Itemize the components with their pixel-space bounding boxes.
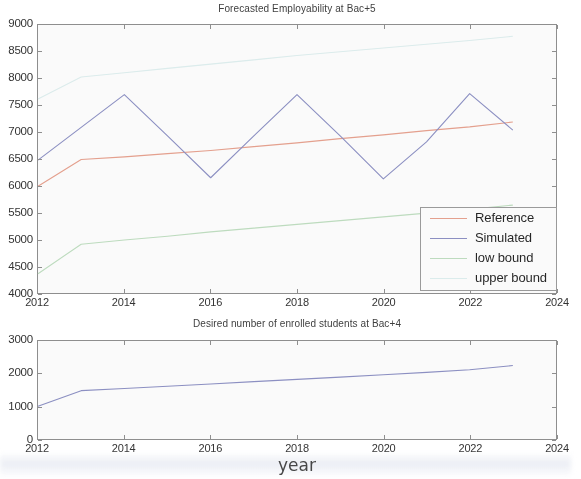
y-tick xyxy=(38,51,42,52)
y-tick xyxy=(38,105,42,106)
x-tick-label: 2018 xyxy=(271,296,323,308)
y-tick xyxy=(552,51,556,52)
y-tick-label: 8500 xyxy=(0,44,33,56)
x-tick xyxy=(297,25,298,29)
y-tick xyxy=(38,132,42,133)
x-tick xyxy=(384,341,385,345)
x-tick-label: 2020 xyxy=(358,296,410,308)
legend-color-swatch xyxy=(430,278,467,279)
x-tick-label: 2014 xyxy=(98,442,150,454)
x-tick xyxy=(384,289,385,293)
x-tick xyxy=(210,25,211,29)
y-tick xyxy=(38,440,42,441)
y-tick xyxy=(38,78,42,79)
x-tick xyxy=(37,341,38,345)
y-tick-label: 6000 xyxy=(0,179,33,191)
series-line-enrolled-students xyxy=(38,366,513,407)
x-tick xyxy=(210,289,211,293)
y-tick xyxy=(552,105,556,106)
y-tick-label: 1000 xyxy=(0,400,33,412)
y-tick-label: 8000 xyxy=(0,71,33,83)
y-tick xyxy=(552,78,556,79)
top-chart-title: Forecasted Employability at Bac+5 xyxy=(37,3,557,14)
series-line-upper-bound xyxy=(38,36,513,99)
y-tick xyxy=(552,340,556,341)
y-tick-label: 7500 xyxy=(0,98,33,110)
x-tick xyxy=(384,435,385,439)
y-tick xyxy=(38,186,42,187)
x-tick xyxy=(124,341,125,345)
x-tick xyxy=(124,25,125,29)
x-tick-label: 2012 xyxy=(11,296,63,308)
x-tick xyxy=(297,435,298,439)
x-tick xyxy=(557,435,558,439)
x-tick-label: 2018 xyxy=(271,442,323,454)
x-tick-label: 2012 xyxy=(11,442,63,454)
y-tick xyxy=(552,159,556,160)
bottom-chart-title: Desired number of enrolled students at B… xyxy=(37,318,557,329)
legend-item-upper-bound: upper bound xyxy=(421,268,556,287)
y-tick xyxy=(552,24,556,25)
y-tick xyxy=(552,294,556,295)
x-tick xyxy=(297,341,298,345)
legend-item-reference: Reference xyxy=(421,208,556,227)
x-tick-label: 2016 xyxy=(184,442,236,454)
x-tick xyxy=(37,289,38,293)
y-tick xyxy=(38,267,42,268)
x-tick xyxy=(470,341,471,345)
series-line-simulated xyxy=(38,94,513,179)
x-tick xyxy=(557,25,558,29)
y-tick-label: 6500 xyxy=(0,152,33,164)
legend-item-low-bound: low bound xyxy=(421,248,556,267)
y-tick xyxy=(38,407,42,408)
y-tick-label: 4500 xyxy=(0,260,33,272)
x-tick xyxy=(557,341,558,345)
y-tick-label: 7000 xyxy=(0,125,33,137)
x-tick xyxy=(297,289,298,293)
x-tick-label: 2022 xyxy=(444,442,496,454)
x-tick-label: 2014 xyxy=(98,296,150,308)
y-tick-label: 5000 xyxy=(0,233,33,245)
x-tick xyxy=(37,25,38,29)
y-tick xyxy=(552,407,556,408)
y-tick xyxy=(552,440,556,441)
x-tick-label: 2022 xyxy=(444,296,496,308)
y-tick xyxy=(38,240,42,241)
y-tick xyxy=(38,213,42,214)
x-tick xyxy=(470,25,471,29)
series-line-reference xyxy=(38,122,513,186)
legend-label: upper bound xyxy=(475,270,547,285)
y-tick-label: 3000 xyxy=(0,333,33,345)
x-axis-label: year xyxy=(237,455,357,475)
y-tick xyxy=(38,373,42,374)
legend-label: Reference xyxy=(475,210,534,225)
y-tick-label: 5500 xyxy=(0,206,33,218)
x-tick-label: 2016 xyxy=(184,296,236,308)
y-tick xyxy=(38,294,42,295)
y-tick xyxy=(552,186,556,187)
x-tick-label: 2024 xyxy=(531,442,581,454)
y-tick xyxy=(552,373,556,374)
legend-color-swatch xyxy=(430,238,467,239)
y-tick-label: 9000 xyxy=(0,17,33,29)
y-tick-label: 2000 xyxy=(0,366,33,378)
x-tick-label: 2024 xyxy=(531,296,581,308)
y-tick xyxy=(552,132,556,133)
x-tick xyxy=(557,289,558,293)
x-tick xyxy=(210,435,211,439)
chart-legend: ReferenceSimulatedlow boundupper bound xyxy=(420,207,557,291)
x-tick xyxy=(124,289,125,293)
y-tick xyxy=(38,24,42,25)
x-tick xyxy=(470,435,471,439)
legend-label: Simulated xyxy=(475,230,532,245)
legend-color-swatch xyxy=(430,258,467,259)
x-tick xyxy=(210,341,211,345)
bottom-chart-axes xyxy=(37,340,557,440)
legend-color-swatch xyxy=(430,218,467,219)
x-tick xyxy=(384,25,385,29)
legend-item-simulated: Simulated xyxy=(421,228,556,247)
y-tick xyxy=(38,159,42,160)
y-tick xyxy=(38,340,42,341)
